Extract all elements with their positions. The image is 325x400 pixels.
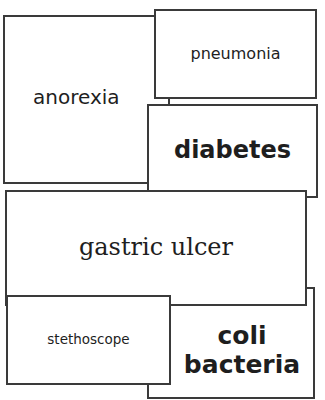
card-stethoscope-label: stethoscope <box>47 332 129 348</box>
card-diabetes-label: diabetes <box>174 137 291 165</box>
card-gastric-ulcer-label: gastric ulcer <box>79 234 233 262</box>
card-coli-bacteria-line1: coli <box>184 322 300 351</box>
card-coli-bacteria-text: coli bacteria <box>184 322 300 380</box>
card-gastric-ulcer[interactable]: gastric ulcer <box>5 190 307 306</box>
card-pneumonia[interactable]: pneumonia <box>154 9 317 99</box>
card-stethoscope[interactable]: stethoscope <box>6 295 171 385</box>
card-anorexia[interactable]: anorexia <box>3 15 170 184</box>
card-coli-bacteria-line2: bacteria <box>184 351 300 380</box>
card-pneumonia-label: pneumonia <box>190 45 280 63</box>
card-diabetes[interactable]: diabetes <box>147 104 318 198</box>
card-anorexia-label: anorexia <box>33 86 120 109</box>
